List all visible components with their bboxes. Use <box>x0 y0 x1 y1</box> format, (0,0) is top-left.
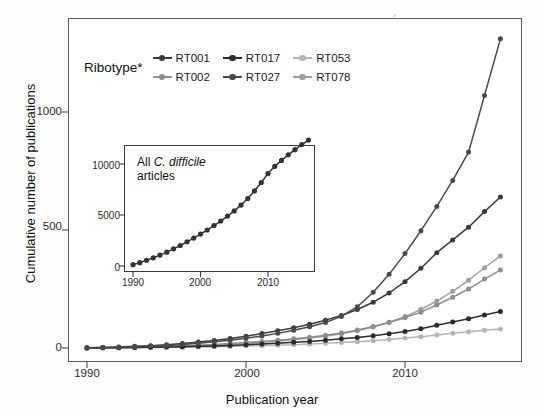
inset-title: All C. difficile articles <box>137 155 257 183</box>
legend-entry-rt053[interactable]: RT053 <box>293 52 350 64</box>
legend-swatch-rt053 <box>293 53 312 63</box>
figure-canvas: 1000 500 0 1990 2000 2010 Cumulative num… <box>0 0 544 416</box>
inset-x-tick-label-2010: 2010 <box>243 277 293 288</box>
legend-label-rt027: RT027 <box>246 71 280 83</box>
y-tick-label-0: 0 <box>18 341 62 353</box>
legend-label-rt078: RT078 <box>316 71 350 83</box>
inset-y-tick-label-5000: 5000 <box>78 210 120 221</box>
legend-entry-rt002[interactable]: RT002 <box>153 71 210 83</box>
legend-entry-rt027[interactable]: RT027 <box>223 71 280 83</box>
inset-y-tick-label-10000: 10000 <box>78 160 120 171</box>
legend-swatch-rt001 <box>153 53 172 63</box>
x-tick-label-2000: 2000 <box>217 367 277 379</box>
legend-entry-rt017[interactable]: RT017 <box>223 52 280 64</box>
inset-y-tick-label-0: 0 <box>78 262 120 273</box>
legend-swatch-rt027 <box>223 72 242 82</box>
legend-entries: RT001 RT017 RT053 <box>153 52 351 83</box>
x-tick-label-2010: 2010 <box>375 367 435 379</box>
legend-entry-rt078[interactable]: RT078 <box>293 71 350 83</box>
legend-title: Ribotype* <box>84 60 143 75</box>
legend-swatch-rt002 <box>153 72 172 82</box>
x-tick-label-1990: 1990 <box>57 367 117 379</box>
legend-label-rt053: RT053 <box>316 52 350 64</box>
legend-entry-rt001[interactable]: RT001 <box>153 52 210 64</box>
inset-x-tick-label-1990: 1990 <box>108 277 158 288</box>
inset-title-line2: articles <box>137 169 175 183</box>
legend-label-rt017: RT017 <box>246 52 280 64</box>
legend-swatch-rt017 <box>223 53 242 63</box>
legend-label-rt002: RT002 <box>176 71 210 83</box>
inset-title-species: C. difficile <box>154 155 206 169</box>
legend: Ribotype* RT001 RT017 <box>84 52 350 83</box>
background-speck <box>393 14 396 17</box>
inset-title-prefix: All <box>137 155 154 169</box>
legend-swatch-rt078 <box>293 72 312 82</box>
x-axis-title: Publication year <box>0 392 544 407</box>
y-axis-title: Cumulative number of publications <box>23 59 38 309</box>
legend-label-rt001: RT001 <box>176 52 210 64</box>
inset-x-tick-label-2000: 2000 <box>175 277 225 288</box>
